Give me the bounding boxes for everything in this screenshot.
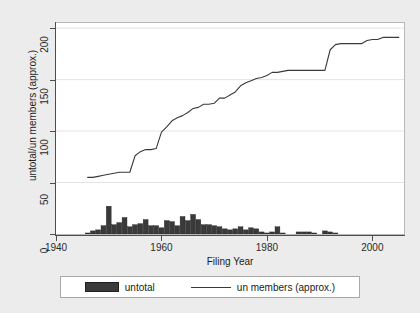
y-tick-label: 50 [39, 181, 50, 217]
bar [196, 220, 201, 234]
bar [322, 231, 327, 234]
x-tick-label: 1960 [138, 242, 184, 253]
bar [312, 233, 317, 234]
plot-canvas [56, 23, 404, 234]
figure: 0501001502001940196019802000 untotal/un … [0, 0, 420, 313]
x-tick-label: 1980 [244, 242, 290, 253]
bar [301, 232, 306, 234]
y-tick-label: 100 [39, 130, 50, 166]
bar [328, 232, 333, 234]
bar [307, 232, 312, 234]
x-tick-label: 1940 [33, 242, 79, 253]
line-series [88, 37, 399, 177]
chart-legend: untotal un members (approx.) [60, 276, 360, 298]
bar [170, 222, 175, 234]
bar [296, 232, 301, 234]
y-tick-mark [50, 28, 55, 29]
bar [333, 233, 338, 234]
bar [106, 206, 111, 234]
bar [148, 226, 153, 234]
legend-label-untotal: untotal [125, 282, 155, 293]
bar [228, 230, 233, 234]
legend-entry-untotal: untotal [85, 282, 155, 293]
bar [175, 226, 180, 234]
x-tick-mark [372, 236, 373, 241]
bar [138, 224, 143, 234]
bar [185, 221, 190, 234]
bar [122, 218, 127, 234]
bar [238, 227, 243, 234]
bar [90, 231, 95, 234]
bar [243, 230, 248, 234]
bar [264, 233, 269, 234]
bar [164, 221, 169, 234]
y-tick-mark [50, 131, 55, 132]
x-tick-mark [267, 236, 268, 241]
bar [201, 225, 206, 234]
bar [254, 229, 259, 234]
x-tick-label: 2000 [349, 242, 395, 253]
x-axis-line [55, 235, 405, 236]
bar [127, 227, 132, 234]
bar [191, 214, 196, 234]
y-axis-line [55, 22, 56, 235]
bar [85, 233, 90, 234]
bar [133, 225, 138, 234]
bar [159, 228, 164, 234]
y-tick-mark [50, 183, 55, 184]
bar [280, 233, 285, 234]
bar [217, 227, 222, 234]
y-tick-mark [50, 80, 55, 81]
bar [101, 226, 106, 234]
y-axis-label: untotal/un members (approx.) [27, 16, 38, 216]
bar [259, 232, 264, 234]
legend-bar-swatch-icon [85, 282, 119, 292]
bar [180, 217, 185, 234]
bar [249, 228, 254, 234]
bar [96, 230, 101, 234]
legend-line-swatch-icon [191, 287, 231, 288]
x-tick-mark [56, 236, 57, 241]
bar [154, 226, 159, 234]
x-axis-label: Filing Year [55, 256, 405, 267]
bar [212, 226, 217, 234]
bar [222, 229, 227, 234]
y-tick-mark [50, 234, 55, 235]
legend-entry-un-members: un members (approx.) [191, 282, 335, 293]
y-tick-label: 200 [39, 27, 50, 63]
bar [143, 220, 148, 234]
y-tick-label: 150 [39, 78, 50, 114]
bar [112, 225, 117, 234]
legend-label-un-members: un members (approx.) [237, 282, 335, 293]
bar [117, 223, 122, 234]
bar [275, 227, 280, 234]
bar [233, 229, 238, 234]
bar [270, 232, 275, 234]
plot-area [55, 22, 405, 235]
bar [206, 225, 211, 234]
x-tick-mark [161, 236, 162, 241]
